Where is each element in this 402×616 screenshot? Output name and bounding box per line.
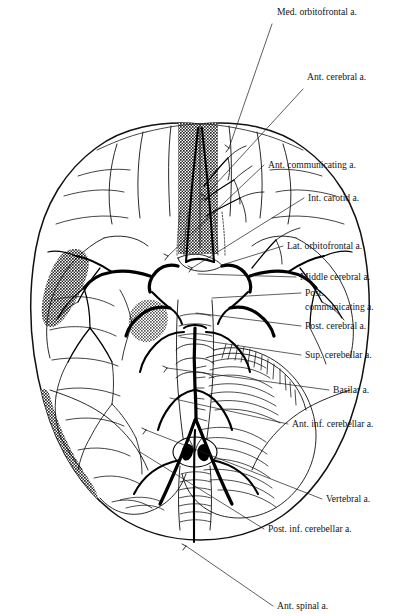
label-middle-cerebral: Middle cerebral a. (300, 271, 370, 282)
label-post-cerebral: Post. cerebral a. (305, 320, 366, 331)
anatomical-figure: Med. orbitofrontal a.Ant. cerebral a.Ant… (0, 0, 402, 616)
label-ant-cerebral: Ant. cerebral a. (307, 71, 366, 82)
label-post-communicating: Post. (305, 287, 324, 298)
label-ant-spinal: Ant. spinal a. (277, 600, 328, 611)
brain-arteries-diagram: Med. orbitofrontal a.Ant. cerebral a.Ant… (0, 0, 402, 616)
label-int-carotid: Int. carotid a. (308, 192, 359, 203)
label-med-orbitofrontal: Med. orbitofrontal a. (277, 6, 357, 17)
label-basilar: Basilar a. (333, 384, 369, 395)
label-post-inf-cerebellar: Post. inf. cerebellar a. (268, 523, 352, 534)
label-ant-inf-cerebellar: Ant. inf. cerebellar a. (292, 418, 374, 429)
label-sup-cerebellar: Sup. cerebellar a. (305, 349, 372, 360)
label-vertebral: Vertebral a. (326, 493, 370, 504)
label-lat-orbitofrontal: Lat. orbitofrontal a. (287, 240, 362, 251)
label-ant-communicating: Ant. communicating a. (268, 159, 356, 170)
basilar-artery (194, 328, 196, 420)
label-post-communicating-line2: communicating a. (305, 301, 374, 312)
